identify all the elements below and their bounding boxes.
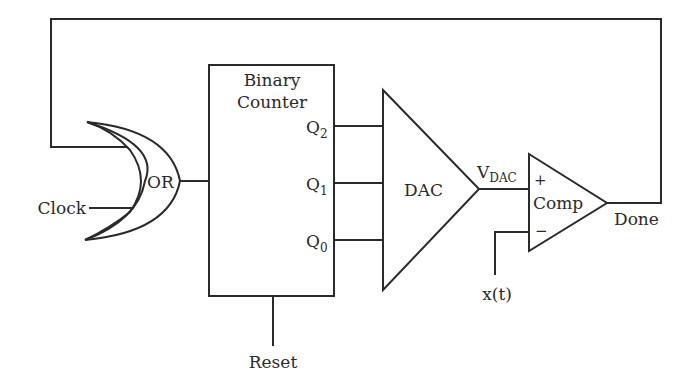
comparator-minus-sign: − [535,222,548,240]
input-label: x(t) [482,284,512,304]
or-gate: OR [85,122,180,240]
done-label: Done [614,209,659,229]
or-gate-label: OR [147,172,175,192]
clock-label: Clock [37,198,86,218]
adc-block-diagram: OR Binary Counter Q2 Q1 Q0 Reset Clock D… [0,0,693,390]
vdac-label: VDAC [476,162,517,185]
input-wire [495,232,529,275]
counter-title-line1: Binary [244,70,301,90]
counter-title-line2: Counter [237,92,308,112]
reset-label: Reset [249,352,298,372]
comparator-label: Comp [533,193,583,213]
comparator-plus-sign: + [534,171,547,189]
dac-label: DAC [404,180,443,200]
